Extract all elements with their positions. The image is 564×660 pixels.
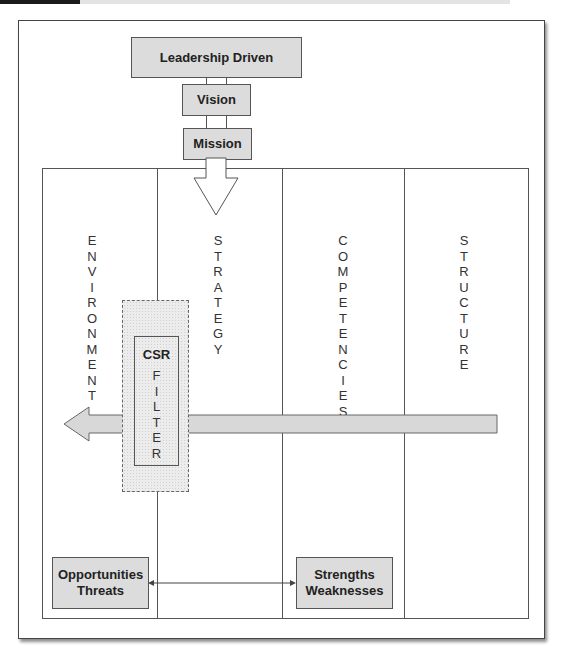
weaknesses-label: Weaknesses (306, 583, 384, 599)
column-label-strategy: S T R A T E G Y (208, 233, 228, 357)
header-bar-dark (0, 0, 80, 4)
strengths-weaknesses-box: Strengths Weaknesses (296, 557, 393, 609)
column-divider-2 (282, 168, 283, 618)
column-divider-3 (404, 168, 405, 618)
header-bar-light (80, 0, 510, 4)
vision-label: Vision (197, 92, 236, 108)
opportunities-label: Opportunities (58, 567, 143, 583)
vision-box: Vision (182, 84, 251, 116)
mission-label: Mission (193, 136, 241, 152)
csr-filter-title: CSR (135, 347, 178, 362)
leadership-driven-box: Leadership Driven (131, 37, 302, 78)
column-label-structure: S T R U C T U R E (454, 233, 474, 373)
down-arrow-icon (196, 158, 240, 218)
opportunities-threats-box: Opportunities Threats (52, 557, 149, 609)
threats-label: Threats (77, 583, 124, 599)
leadership-driven-label: Leadership Driven (160, 50, 273, 66)
column-label-competencies: C O M P E T E N C I E S (333, 233, 353, 419)
csr-filter-box: CSR F I L T E R (134, 336, 179, 466)
strengths-label: Strengths (314, 567, 375, 583)
column-label-environment: E N V I R O N M E N T (82, 233, 102, 404)
mission-box: Mission (183, 128, 252, 160)
bidirectional-arrow-icon (148, 578, 298, 588)
csr-filter-letters: F I L T E R (135, 368, 178, 461)
